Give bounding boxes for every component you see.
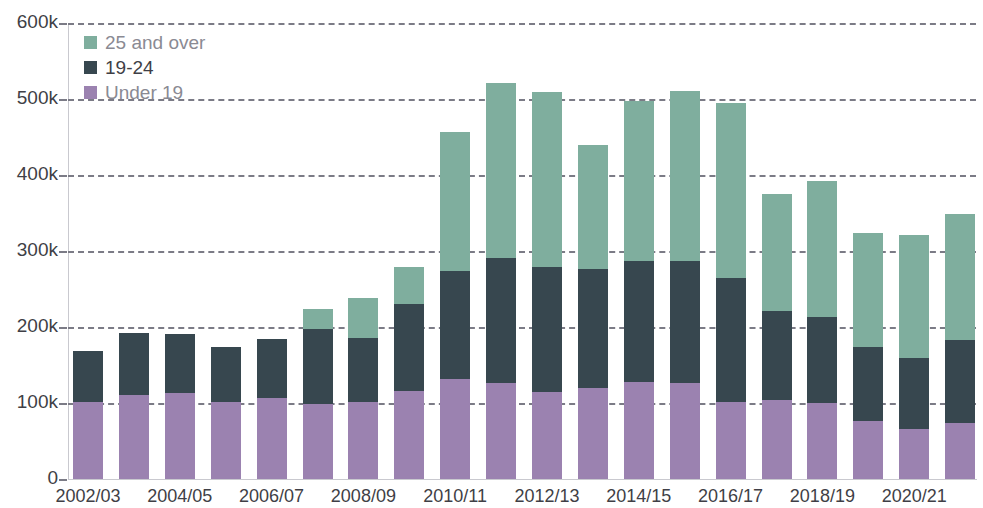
- legend-swatch-icon: [84, 86, 97, 99]
- bar-segment[interactable]: [440, 132, 470, 270]
- y-axis-tick-label: 500k: [0, 87, 58, 109]
- bar-group[interactable]: [670, 23, 700, 479]
- bar-segment[interactable]: [73, 402, 103, 479]
- bar-segment[interactable]: [257, 398, 287, 479]
- legend-item[interactable]: 25 and over: [84, 30, 205, 55]
- bar-segment[interactable]: [348, 298, 378, 338]
- bar-segment[interactable]: [945, 214, 975, 340]
- bar-group[interactable]: [807, 23, 837, 479]
- bar-segment[interactable]: [303, 404, 333, 479]
- bar-group[interactable]: [486, 23, 516, 479]
- bar-segment[interactable]: [348, 338, 378, 403]
- bar-segment[interactable]: [303, 329, 333, 403]
- bar-segment[interactable]: [578, 145, 608, 269]
- x-axis-line: [68, 479, 977, 480]
- legend-item[interactable]: Under 19: [84, 80, 205, 105]
- bar-segment[interactable]: [165, 393, 195, 479]
- bar-segment[interactable]: [486, 383, 516, 479]
- bar-segment[interactable]: [532, 267, 562, 392]
- legend-item-label: 19-24: [105, 57, 154, 79]
- x-axis-tick-label: 2006/07: [239, 486, 304, 507]
- bar-segment[interactable]: [211, 402, 241, 479]
- y-axis-tick-label: 400k: [0, 163, 58, 185]
- bar-group[interactable]: [440, 23, 470, 479]
- bar-segment[interactable]: [762, 311, 792, 400]
- bar-segment[interactable]: [670, 383, 700, 479]
- bar-segment[interactable]: [624, 382, 654, 479]
- bar-group[interactable]: [303, 23, 333, 479]
- legend-item-label: 25 and over: [105, 32, 205, 54]
- bar-segment[interactable]: [716, 402, 746, 479]
- bar-segment[interactable]: [73, 351, 103, 402]
- x-axis-tick-label: 2010/11: [423, 486, 487, 507]
- bar-group[interactable]: [945, 23, 975, 479]
- x-axis-tick-label: 2016/17: [698, 486, 763, 507]
- bar-segment[interactable]: [119, 395, 149, 479]
- bar-segment[interactable]: [348, 402, 378, 479]
- bar-group[interactable]: [716, 23, 746, 479]
- x-axis-tick-label: 2014/15: [606, 486, 671, 507]
- bar-segment[interactable]: [440, 379, 470, 479]
- bar-segment[interactable]: [670, 261, 700, 383]
- bar-segment[interactable]: [578, 269, 608, 388]
- bar-segment[interactable]: [945, 340, 975, 423]
- bar-segment[interactable]: [670, 91, 700, 261]
- bar-segment[interactable]: [394, 391, 424, 479]
- bar-segment[interactable]: [716, 103, 746, 279]
- bar-segment[interactable]: [945, 423, 975, 479]
- bar-segment[interactable]: [853, 421, 883, 479]
- y-axis-tick-label: 0: [0, 467, 58, 489]
- bar-segment[interactable]: [440, 271, 470, 379]
- bar-segment[interactable]: [532, 92, 562, 267]
- bar-segment[interactable]: [303, 309, 333, 330]
- y-axis-tick: [59, 99, 67, 101]
- bar-group[interactable]: [762, 23, 792, 479]
- bar-group[interactable]: [211, 23, 241, 479]
- bar-group[interactable]: [348, 23, 378, 479]
- x-axis-tick-label: 2020/21: [882, 486, 947, 507]
- bar-segment[interactable]: [486, 258, 516, 383]
- bar-segment[interactable]: [807, 317, 837, 403]
- bar-segment[interactable]: [624, 261, 654, 382]
- bar-segment[interactable]: [762, 194, 792, 311]
- bar-group[interactable]: [899, 23, 929, 479]
- bar-segment[interactable]: [486, 83, 516, 258]
- y-axis-tick: [59, 251, 67, 253]
- bar-segment[interactable]: [578, 388, 608, 479]
- bar-segment[interactable]: [624, 101, 654, 261]
- bar-segment[interactable]: [119, 333, 149, 395]
- bar-segment[interactable]: [807, 403, 837, 479]
- y-axis-tick: [59, 479, 67, 481]
- bar-segment[interactable]: [762, 400, 792, 479]
- x-axis-tick-label: 2012/13: [514, 486, 579, 507]
- y-axis-tick-label: 200k: [0, 315, 58, 337]
- bar-segment[interactable]: [853, 347, 883, 421]
- bar-group[interactable]: [257, 23, 287, 479]
- bar-segment[interactable]: [807, 181, 837, 317]
- y-axis-tick-label: 300k: [0, 239, 58, 261]
- bar-segment[interactable]: [394, 304, 424, 391]
- bar-segment[interactable]: [716, 278, 746, 402]
- bar-segment[interactable]: [211, 347, 241, 402]
- bar-segment[interactable]: [853, 233, 883, 347]
- bar-group[interactable]: [853, 23, 883, 479]
- bar-segment[interactable]: [899, 358, 929, 429]
- bar-group[interactable]: [394, 23, 424, 479]
- bar-segment[interactable]: [899, 429, 929, 479]
- y-axis-tick-label: 600k: [0, 11, 58, 33]
- x-axis-tick-label: 2002/03: [55, 486, 120, 507]
- bar-segment[interactable]: [899, 235, 929, 358]
- bar-group[interactable]: [578, 23, 608, 479]
- chart-legend: 25 and over19-24Under 19: [82, 28, 209, 107]
- y-axis-tick: [59, 327, 67, 329]
- bar-segment[interactable]: [532, 392, 562, 479]
- x-axis-tick-label: 2008/09: [331, 486, 396, 507]
- bar-segment[interactable]: [165, 334, 195, 393]
- bar-segment[interactable]: [394, 267, 424, 304]
- bar-group[interactable]: [532, 23, 562, 479]
- x-axis-tick-label: 2018/19: [790, 486, 855, 507]
- bar-group[interactable]: [624, 23, 654, 479]
- x-axis-tick-label: 2004/05: [147, 486, 212, 507]
- bar-segment[interactable]: [257, 339, 287, 398]
- legend-item[interactable]: 19-24: [84, 55, 205, 80]
